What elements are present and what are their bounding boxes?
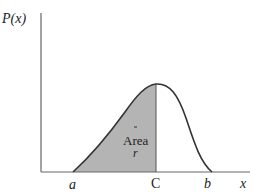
tick-label-b: b — [204, 176, 211, 191]
probability-density-diagram: P(x) x a C b Area r — [0, 0, 263, 194]
x-axis-label: x — [239, 176, 247, 191]
tick-label-c: C — [151, 176, 160, 191]
tick-label-a: a — [69, 177, 76, 192]
area-value-label: r — [133, 146, 138, 160]
y-axis-label: P(x) — [1, 11, 26, 27]
